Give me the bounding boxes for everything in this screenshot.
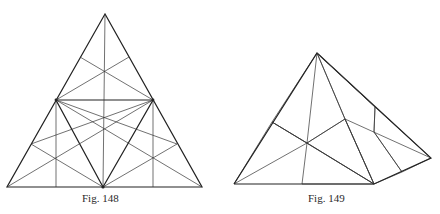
fig-148-diagram [7,14,202,189]
figure-canvas [0,0,440,214]
fig-149-diagram [234,53,431,184]
fig-149-caption: Fig. 149 [308,192,345,204]
fig-148-caption: Fig. 148 [82,192,119,204]
